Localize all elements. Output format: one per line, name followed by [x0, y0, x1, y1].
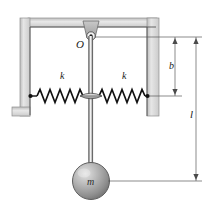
right-spring	[99, 90, 150, 103]
diagram-canvas	[0, 0, 216, 210]
mass-label: m	[87, 177, 94, 187]
right-spring-label: k	[122, 71, 126, 81]
left-spring-label: k	[60, 71, 64, 81]
pivot-label: O	[76, 39, 84, 50]
dim-b-arrow-up	[172, 38, 177, 44]
coil-spring-icon	[99, 90, 145, 103]
right-wall-column	[147, 18, 159, 116]
rod-body	[89, 36, 93, 182]
right-wall-body	[147, 18, 159, 116]
dimension-l-label: l	[190, 109, 193, 120]
left-wall-body	[20, 18, 30, 116]
dim-l-arrow-up	[193, 38, 198, 44]
left-wall-foot	[12, 107, 30, 116]
left-wall-column	[12, 18, 30, 116]
pendulum-rod	[89, 36, 93, 182]
right-spring-anchor	[145, 94, 149, 98]
left-spring	[28, 90, 83, 103]
mechanics-figure: O k k b l m	[0, 0, 216, 210]
coil-spring-icon	[37, 90, 83, 103]
dimension-b-label: b	[169, 61, 174, 71]
dim-l-arrow-down	[193, 174, 198, 180]
left-spring-anchor	[28, 94, 32, 98]
rod-collar-icon	[80, 93, 102, 99]
dim-b-arrow-down	[172, 89, 177, 95]
